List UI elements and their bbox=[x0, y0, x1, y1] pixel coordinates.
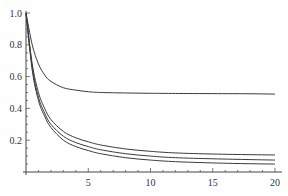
ticks bbox=[26, 13, 275, 172]
y-tick-label: 0.8 bbox=[10, 39, 23, 50]
x-tick-label: 15 bbox=[208, 177, 218, 188]
y-tick-label: 0.2 bbox=[10, 135, 23, 146]
x-tick-label: 10 bbox=[146, 177, 156, 188]
y-tick-label: 0.6 bbox=[10, 71, 23, 82]
series-curve-1 bbox=[26, 13, 275, 94]
series-curve-3 bbox=[26, 13, 275, 160]
y-tick-label: 1.0 bbox=[10, 8, 23, 19]
tick-labels: 51015200.20.40.60.81.0 bbox=[10, 8, 281, 189]
series-curve-4 bbox=[26, 13, 275, 164]
x-tick-label: 20 bbox=[270, 177, 280, 188]
line-chart: 51015200.20.40.60.81.0 bbox=[0, 0, 288, 196]
series-curve-2 bbox=[26, 13, 275, 155]
y-tick-label: 0.4 bbox=[10, 103, 23, 114]
curves bbox=[26, 13, 275, 164]
x-tick-label: 5 bbox=[86, 177, 91, 188]
